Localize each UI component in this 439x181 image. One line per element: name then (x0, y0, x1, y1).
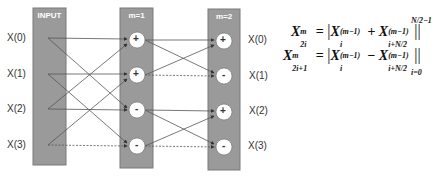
m1-node-2-sign: - (135, 103, 138, 114)
formula-sup: (m−1) (388, 51, 408, 60)
formula-lower-limit: i=0 (411, 68, 422, 77)
formula-sup: m (300, 27, 306, 36)
formula-sup: (m−1) (340, 27, 360, 36)
m2-node-1-sign: - (222, 69, 225, 80)
formula-term: X (291, 24, 300, 39)
formula-op-minus: − (367, 48, 375, 63)
m2-node-3-sign: - (222, 140, 225, 151)
m2-node-0-sign: + (220, 34, 226, 45)
output-label-0: X(0) (248, 34, 267, 45)
input-label-0: X(0) (7, 32, 26, 43)
m1-node-1-sign: + (133, 68, 139, 79)
m1-node-0-sign: + (133, 33, 139, 44)
stage-m2-title: m=2 (208, 12, 240, 21)
m2-node-2-sign: + (220, 105, 226, 116)
input-label-3: X(3) (7, 139, 26, 150)
formula-line-odd: Xm2i+1 = |X(m−1)i − X(m−1)i+N/2|| (283, 46, 421, 64)
formula-equals: = (316, 48, 324, 63)
formula-sup: m (292, 51, 298, 60)
formula-sup: (m−1) (340, 51, 360, 60)
formula-upper-limit: N/2−1 (411, 16, 432, 25)
formula-op-plus: + (367, 24, 375, 39)
output-label-3: X(3) (248, 140, 267, 151)
output-label-2: X(2) (249, 105, 268, 116)
formula-sub: 2i+1 (292, 64, 307, 73)
stage-m1-title: m=1 (120, 11, 153, 20)
stage-input-box (33, 8, 66, 165)
stage-input-title: INPUT (33, 11, 66, 20)
formula-term: X (283, 48, 292, 63)
formula-term: X (331, 48, 340, 63)
formula-sub: i (340, 64, 342, 73)
formula-term: X (331, 24, 340, 39)
formula-sub: i+N/2 (388, 64, 407, 73)
input-label-1: X(1) (7, 68, 26, 79)
m1-connections (145, 40, 214, 147)
formula-equals: = (316, 24, 324, 39)
formula-sup: (m−1) (388, 27, 408, 36)
formula-term: X (379, 48, 388, 63)
formula-line-even: Xm2i = |X(m−1)i + X(m−1)i+N/2|| (291, 22, 421, 40)
m1-node-3-sign: - (135, 139, 138, 150)
butterfly-formula: Xm2i = |X(m−1)i + X(m−1)i+N/2|| Xm2i+1 =… (283, 16, 439, 86)
formula-bar: || (414, 46, 420, 63)
formula-term: X (379, 24, 388, 39)
input-label-2: X(2) (7, 103, 26, 114)
output-label-1: X(1) (249, 70, 268, 81)
